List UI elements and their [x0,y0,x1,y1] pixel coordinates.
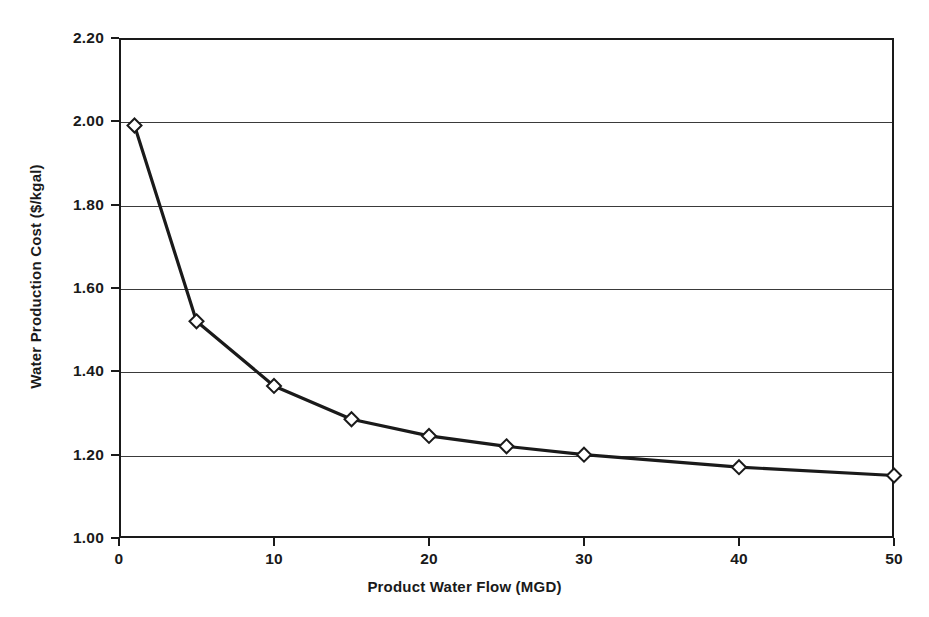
x-tick-mark [583,538,585,546]
y-tick-label: 2.20 [24,29,104,47]
x-tick-label: 40 [699,550,779,568]
y-tick-mark [111,120,119,122]
y-tick-mark [111,454,119,456]
y-tick-mark [111,204,119,206]
gridline-horizontal [121,122,892,123]
x-tick-label: 50 [854,550,929,568]
x-tick-mark [893,538,895,546]
x-tick-label: 20 [389,550,469,568]
y-tick-mark [111,370,119,372]
x-tick-label: 0 [79,550,159,568]
gridline-horizontal [121,289,892,290]
x-axis-title: Product Water Flow (MGD) [0,578,929,595]
plot-area [119,38,894,538]
x-tick-mark [738,538,740,546]
x-tick-label: 10 [234,550,314,568]
y-axis-title: Water Production Cost ($/kgal) [27,97,44,457]
gridline-horizontal [121,456,892,457]
y-tick-mark [111,287,119,289]
x-tick-mark [428,538,430,546]
x-tick-label: 30 [544,550,624,568]
line-chart-figure: 1.001.201.401.601.802.002.20 01020304050… [0,0,929,617]
gridline-horizontal [121,372,892,373]
y-tick-label: 1.00 [24,529,104,547]
y-tick-mark [111,37,119,39]
gridline-horizontal [121,206,892,207]
x-tick-mark [273,538,275,546]
x-tick-mark [118,538,120,546]
